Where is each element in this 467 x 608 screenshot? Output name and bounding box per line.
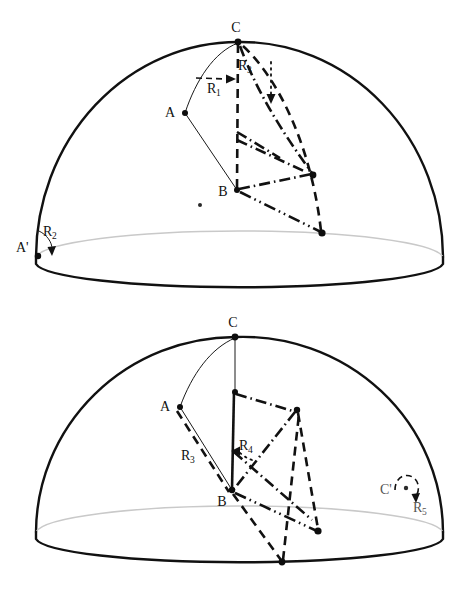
- svg-text:4: 4: [248, 445, 253, 455]
- vertex-endpoint-rim-right-top: [318, 229, 325, 236]
- path-b-to-upper-right-top: [239, 174, 312, 189]
- figure-root: C A B A' R 1 R 3 R 2: [0, 0, 467, 608]
- label-R3-bottom: R 3: [181, 448, 195, 465]
- vertex-peak-right-bottom: [294, 407, 300, 413]
- vertex-C-prime-center-bottom: [404, 486, 408, 490]
- rim-front-top: [36, 257, 443, 287]
- vertex-endpoint-rim-bottom: [314, 527, 321, 534]
- vertex-C-bottom: [232, 334, 239, 341]
- dome-outline-top: [36, 42, 443, 257]
- meridian-arc-ca-bottom: [180, 338, 235, 407]
- vertex-endpoint-low-bottom: [279, 559, 286, 566]
- path-b-to-low-bottom: [233, 494, 281, 560]
- rim-front-bottom: [36, 532, 443, 562]
- point-label-B-bottom: B: [217, 494, 226, 509]
- chord-ab-top: [185, 113, 237, 190]
- point-label-C-top: C: [231, 20, 240, 35]
- point-label-A-top: A: [165, 105, 176, 120]
- svg-text:3: 3: [247, 65, 252, 75]
- vertex-C-top: [235, 39, 242, 46]
- point-label-A-prime-top: A': [16, 240, 29, 255]
- vertex-B-top: [234, 187, 240, 193]
- label-R2-top: R 2: [43, 224, 57, 241]
- point-label-B-top: B: [218, 184, 227, 199]
- path-low-to-peak-bottom: [283, 414, 299, 560]
- vertex-stray-dot-top: [198, 203, 202, 207]
- vertex-A-prime-top: [35, 253, 41, 259]
- dome-outline-bottom: [36, 337, 443, 532]
- svg-text:5: 5: [422, 507, 427, 517]
- point-label-A-bottom: A: [160, 399, 171, 414]
- vertex-endpoint-upper-right-top: [310, 172, 317, 179]
- svg-text:1: 1: [216, 88, 221, 98]
- rim-back-top: [36, 231, 443, 257]
- vertex-B-bottom: [229, 487, 235, 493]
- label-R5-bottom: R 5: [413, 500, 427, 517]
- path-axistop-to-peak-bottom: [236, 394, 296, 412]
- path-c-to-rim-right-top: [243, 46, 321, 231]
- spur-axis-right-top: [237, 140, 306, 172]
- label-R4-bottom: R 4: [239, 438, 253, 455]
- path-b-to-rim-right-top: [240, 192, 321, 232]
- rim-back-bottom: [36, 506, 443, 532]
- label-R1-top: R 1: [207, 81, 221, 98]
- svg-text:2: 2: [52, 231, 57, 241]
- point-label-C-prime-bottom: C': [380, 482, 392, 497]
- label-R3-top: R 3: [238, 58, 252, 75]
- top-panel: C A B A' R 1 R 3 R 2: [0, 0, 467, 304]
- svg-text:3: 3: [190, 455, 195, 465]
- spur-axis-right2-top: [237, 132, 280, 158]
- vertex-A-bottom: [177, 404, 183, 410]
- vertex-axis-top-bottom: [232, 389, 238, 395]
- axis-cb-bottom: [232, 392, 234, 489]
- bottom-panel: C A B C' R 3 R 4 R 5: [0, 304, 467, 608]
- arrow-R5-bottom: [395, 475, 420, 503]
- vertex-A-top: [182, 110, 188, 116]
- point-label-C-bottom: C: [228, 315, 237, 330]
